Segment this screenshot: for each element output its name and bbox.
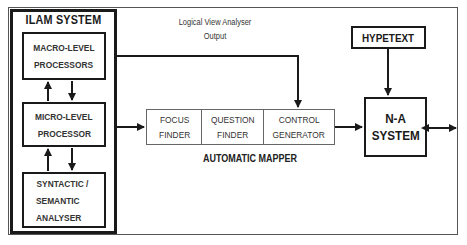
arrow-logical-view-to-control bbox=[117, 56, 298, 107]
connector-arrows bbox=[0, 0, 467, 245]
